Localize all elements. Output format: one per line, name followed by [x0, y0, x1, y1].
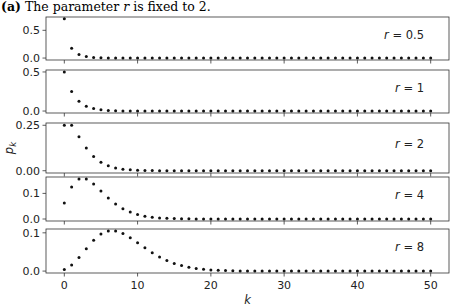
data-point	[92, 56, 95, 59]
data-point	[261, 57, 264, 60]
panel-annotation: r = 0.5	[384, 28, 424, 42]
data-point	[224, 218, 227, 221]
data-point	[158, 169, 161, 172]
data-point	[334, 110, 337, 113]
data-point	[334, 169, 337, 172]
data-point	[143, 215, 146, 218]
data-point	[371, 270, 374, 273]
data-point	[290, 57, 293, 60]
data-point	[239, 110, 242, 113]
data-point	[151, 110, 154, 113]
data-point	[180, 264, 183, 267]
data-point	[371, 169, 374, 172]
data-point	[363, 169, 366, 172]
data-point	[165, 169, 168, 172]
data-point	[246, 269, 249, 272]
data-point	[209, 169, 212, 172]
data-point	[341, 169, 344, 172]
y-tick-label: 0.5	[23, 24, 41, 37]
data-point	[327, 169, 330, 172]
panel-annotation: r = 4	[395, 188, 424, 202]
x-tick-label: 0	[61, 279, 68, 292]
data-point	[231, 218, 234, 221]
data-point	[312, 169, 315, 172]
data-point	[114, 56, 117, 59]
data-point	[85, 55, 88, 58]
x-axis-label: k	[244, 293, 252, 307]
data-point	[400, 57, 403, 60]
data-point	[356, 218, 359, 221]
y-tick-label: 0.1	[23, 187, 41, 200]
data-point	[305, 270, 308, 273]
panel-annotation: r = 1	[395, 81, 424, 95]
data-point	[77, 135, 80, 138]
data-point	[400, 218, 403, 221]
data-point	[253, 270, 256, 273]
data-point	[312, 57, 315, 60]
data-point	[393, 270, 396, 273]
data-point	[268, 169, 271, 172]
data-point	[341, 270, 344, 273]
data-point	[121, 109, 124, 112]
data-point	[136, 169, 139, 172]
data-point	[268, 270, 271, 273]
data-point	[312, 218, 315, 221]
data-point	[429, 110, 432, 113]
data-point	[180, 110, 183, 113]
data-point	[393, 218, 396, 221]
data-point	[121, 207, 124, 210]
data-point	[312, 110, 315, 113]
data-point	[107, 197, 110, 200]
data-point	[290, 169, 293, 172]
data-point	[253, 169, 256, 172]
data-point	[261, 169, 264, 172]
data-point	[319, 110, 322, 113]
data-point	[85, 177, 88, 180]
axes-frame	[46, 123, 449, 173]
data-point	[85, 247, 88, 250]
data-point	[180, 57, 183, 60]
data-point	[187, 217, 190, 220]
y-tick-label: 0.1	[23, 227, 41, 240]
data-point	[195, 169, 198, 172]
data-point	[429, 270, 432, 273]
data-point	[349, 57, 352, 60]
data-point	[136, 57, 139, 60]
data-point	[297, 270, 300, 273]
data-point	[195, 110, 198, 113]
data-point	[151, 57, 154, 60]
data-point	[385, 57, 388, 60]
data-point	[363, 218, 366, 221]
data-point	[165, 217, 168, 220]
data-point	[151, 216, 154, 219]
data-point	[327, 270, 330, 273]
panel-r-1: 0.00.5r = 1	[23, 66, 450, 118]
data-point	[283, 218, 286, 221]
data-point	[114, 166, 117, 169]
data-point	[143, 110, 146, 113]
data-point	[114, 202, 117, 205]
data-point	[173, 57, 176, 60]
x-tick-label: 40	[350, 279, 364, 292]
data-point	[129, 211, 132, 214]
data-point	[231, 269, 234, 272]
data-point	[334, 270, 337, 273]
data-point	[63, 201, 66, 204]
data-point	[341, 110, 344, 113]
data-point	[224, 57, 227, 60]
stacked-scatter-chart: 0.00.5r = 0.50.00.5r = 10.000.25r = 20.0…	[0, 0, 451, 308]
data-point	[371, 110, 374, 113]
data-point	[107, 109, 110, 112]
data-point	[275, 110, 278, 113]
data-point	[209, 57, 212, 60]
data-point	[85, 105, 88, 108]
data-point	[290, 110, 293, 113]
data-point	[231, 57, 234, 60]
axes-frame	[46, 177, 449, 221]
data-point	[407, 169, 410, 172]
data-point	[173, 262, 176, 265]
panel-r-8: 0.00.1r = 8	[23, 227, 450, 278]
data-point	[99, 161, 102, 164]
data-point	[224, 269, 227, 272]
data-point	[312, 270, 315, 273]
